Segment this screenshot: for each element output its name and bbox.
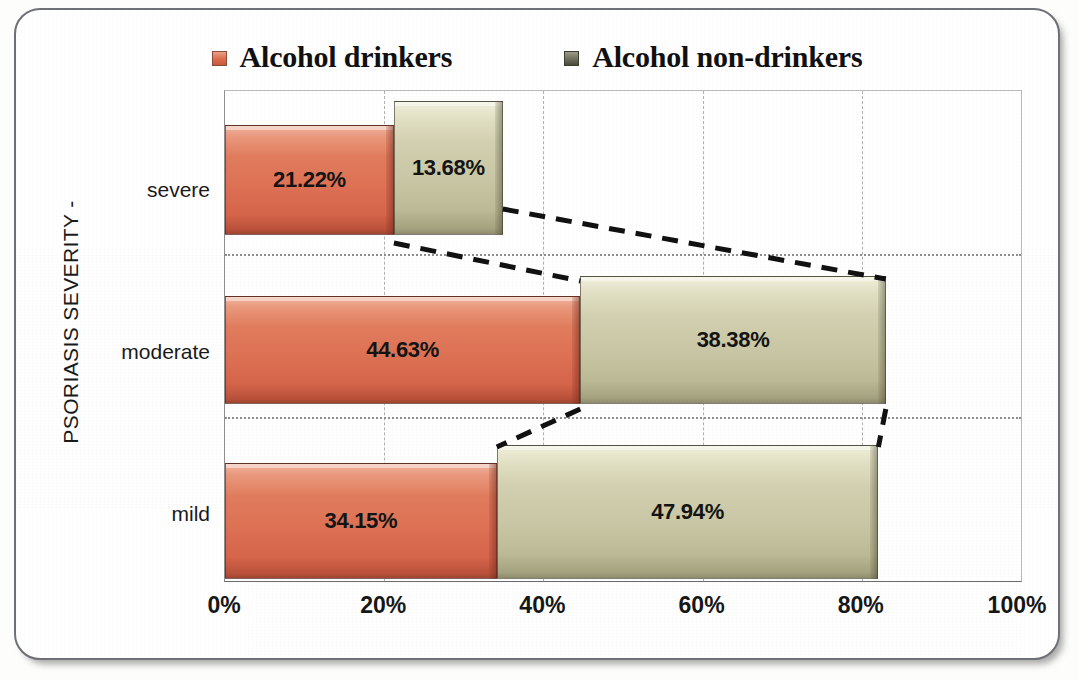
legend-item-drinkers[interactable]: Alcohol drinkers (212, 40, 453, 74)
bar-rim (395, 102, 502, 106)
connector-nondrinkers-moderate-mild (878, 409, 885, 447)
bar-value-severe-drinkers: 21.22% (225, 167, 394, 193)
bar-rim (498, 446, 878, 450)
connector-drinkers-severe-moderate (394, 243, 580, 281)
y-axis-category-labels: severe moderate mild (76, 90, 224, 580)
chart-legend: Alcohol drinkers Alcohol non-drinkers (16, 32, 1058, 82)
bar-mild-drinkers[interactable]: 34.15% (225, 463, 497, 579)
bar-severe-nondrinkers[interactable]: 13.68% (394, 101, 503, 235)
scanned-page: Alcohol drinkers Alcohol non-drinkers PS… (0, 0, 1079, 680)
bar-rim (226, 464, 496, 468)
bar-rim (226, 297, 579, 301)
x-tick-80: 80% (838, 592, 884, 619)
bar-value-severe-nondrinkers: 13.68% (394, 155, 503, 181)
legend-swatch-icon-drinkers (212, 51, 227, 66)
legend-label-nondrinkers: Alcohol non-drinkers (592, 40, 862, 74)
x-axis-tick-labels: 0% 20% 40% 60% 80% 100% (224, 592, 1020, 632)
bar-value-moderate-drinkers: 44.63% (225, 337, 580, 363)
category-separator-1 (225, 254, 1021, 256)
x-tick-0: 0% (207, 592, 240, 619)
bar-rim (581, 277, 885, 281)
category-separator-2 (225, 417, 1021, 419)
legend-swatch-icon-nondrinkers (564, 51, 579, 66)
category-label-severe: severe (147, 178, 210, 202)
x-tick-100: 100% (988, 592, 1047, 619)
bar-row-moderate: 44.63% 38.38% (225, 296, 1021, 404)
category-label-moderate: moderate (121, 340, 210, 364)
legend-label-drinkers: Alcohol drinkers (240, 40, 453, 74)
bar-moderate-drinkers[interactable]: 44.63% (225, 296, 580, 404)
x-tick-40: 40% (519, 592, 565, 619)
bar-moderate-nondrinkers[interactable]: 38.38% (580, 276, 886, 404)
bar-row-severe: 21.22% 13.68% (225, 125, 1021, 235)
x-tick-20: 20% (360, 592, 406, 619)
bar-mild-nondrinkers[interactable]: 47.94% (497, 445, 879, 579)
connector-drinkers-moderate-mild (497, 409, 581, 447)
plot-area: 21.22% 13.68% 44.63% (224, 90, 1022, 582)
x-tick-60: 60% (679, 592, 725, 619)
bar-value-mild-nondrinkers: 47.94% (497, 499, 879, 525)
legend-item-nondrinkers[interactable]: Alcohol non-drinkers (564, 40, 862, 74)
bar-value-mild-drinkers: 34.15% (225, 508, 497, 534)
bar-row-mild: 34.15% 47.94% (225, 463, 1021, 579)
category-label-mild: mild (171, 502, 210, 526)
bar-rim (226, 126, 393, 130)
bar-severe-drinkers[interactable]: 21.22% (225, 125, 394, 235)
chart-card: Alcohol drinkers Alcohol non-drinkers PS… (14, 8, 1060, 660)
bar-value-moderate-nondrinkers: 38.38% (580, 327, 886, 353)
